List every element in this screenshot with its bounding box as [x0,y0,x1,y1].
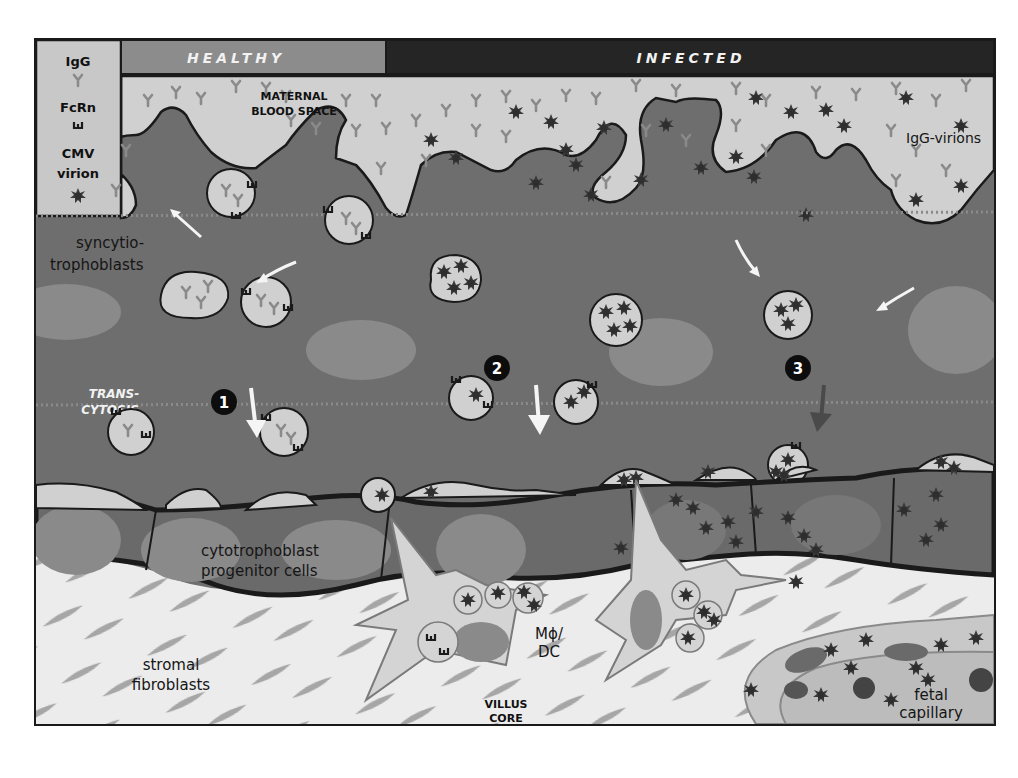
maternal-blood-space-label-line2: BLOOD SPACE [251,105,337,118]
step-badge-1: 1 [211,389,237,415]
legend-box: IgG FcRn CMV virion [36,40,121,216]
stromal-label-line1: stromal [143,656,200,674]
syncytiotrophoblasts-label-line1: syncytio- [76,234,144,252]
vesicle-infected [590,294,642,346]
stromal-label-line2: fibroblasts [132,676,211,694]
vesicle-infected [554,380,598,424]
infected-label: INFECTED [636,50,745,66]
svg-text:3: 3 [793,360,803,378]
svg-text:2: 2 [492,360,502,378]
maternal-blood-space-label-line1: MATERNAL [261,90,328,103]
transcytosis-label-line1: TRANS- [89,387,139,401]
legend-cmv-label-line1: CMV [62,146,95,161]
macrophage-dc-label-line1: Mϕ/ [535,625,564,643]
legend-fcrn-label: FcRn [60,100,96,115]
cytotrophoblast-label-line2: progenitor cells [201,562,318,580]
vesicle-healthy [207,169,256,218]
step-badge-2: 2 [484,355,510,381]
placenta-cmv-transcytosis-diagram: IgG FcRn CMV virion HEALTHY INFECTED [34,38,996,726]
vesicle-healthy [324,196,373,244]
healthy-label: HEALTHY [187,50,285,66]
vesicle-healthy [260,408,308,456]
fetal-capillary-label-line1: fetal [914,686,948,704]
syncytiotrophoblasts-label-line2: trophoblasts [50,256,144,274]
legend-igg-label: IgG [66,54,91,69]
vesicle-infected [430,255,481,302]
legend-cmv-label-line2: virion [57,166,99,181]
villus-core-label-line1: VILLUS [484,698,527,711]
svg-text:1: 1 [219,394,229,412]
vesicle-healthy [241,277,292,327]
vesicle-healthy [160,272,228,318]
fetal-capillary-label-line2: capillary [899,704,963,722]
cytotrophoblast-label-line1: cytotrophoblast [201,542,319,560]
step-badge-3: 3 [785,355,811,381]
vesicle-healthy [108,408,154,455]
vesicle-infected [764,291,812,339]
vesicle-infected [449,376,493,420]
villus-core-label-line2: CORE [489,712,522,724]
macrophage-dc-label-line2: DC [538,643,560,661]
header-bands: HEALTHY INFECTED [121,40,994,74]
igg-virions-label: IgG-virions [906,130,981,146]
